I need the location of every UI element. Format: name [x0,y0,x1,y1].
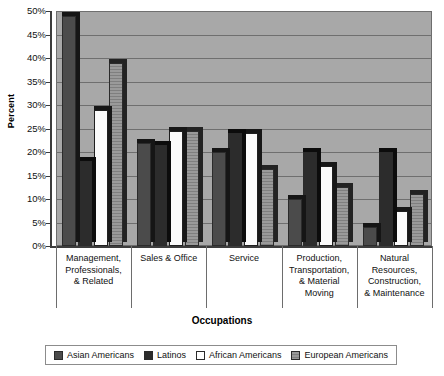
x-axis-line [50,246,433,248]
category-label: Sales & Office [131,253,206,265]
gridline [56,11,432,12]
bar [288,199,302,246]
bar-side-face [151,139,155,242]
y-axis-tick [46,82,51,83]
category-label: Service [206,253,281,265]
bar-side-face [108,106,112,242]
plot-area [56,11,432,246]
bar-side-face [317,148,321,242]
category-label-line: Natural [357,253,432,265]
category-label-line: Production, [282,253,357,265]
category-label-line: & Material [282,276,357,288]
bar-side-face [274,165,278,243]
bar-side-face [123,59,127,242]
chart-legend: Asian AmericansLatinosAfrican AmericansE… [45,345,397,365]
legend-label: Asian Americans [67,350,134,360]
y-axis-tick [46,35,51,36]
x-axis-title: Occupations [0,315,444,326]
bar-side-face [92,157,96,242]
bar-side-face [167,141,171,242]
y-axis-title: Percent [6,76,16,146]
bar-front-face [137,143,151,246]
legend-label: African Americans [209,350,282,360]
legend-item: European Americans [291,350,388,360]
bar-side-face [393,148,397,242]
y-axis-tick-label: 5% [0,217,46,228]
category-label-line: Management, [56,253,131,265]
category-label-line: Construction, [357,276,432,288]
legend-swatch-icon [291,351,300,360]
y-axis-tick-label: 45% [0,29,46,40]
bar [62,16,76,246]
bar-chart: Percent 0%5%10%15%20%25%30%35%40%45%50% … [0,0,444,376]
bar [212,152,226,246]
bar-front-face [363,227,377,246]
legend-swatch-icon [144,351,153,360]
x-axis-category-labels: Management,Professionals,& RelatedSales … [56,253,432,311]
gridline [56,35,432,36]
legend-item: Latinos [144,350,186,360]
y-axis-tick-label: 15% [0,170,46,181]
bar-side-face [76,12,80,242]
category-label-line: & Related [56,276,131,288]
y-axis-tick [46,246,51,247]
bar-front-face [288,199,302,246]
bar-side-face [302,195,306,242]
category-label-line: Moving [282,288,357,300]
bar [137,143,151,246]
bar-side-face [183,127,187,242]
bar-front-face [212,152,226,246]
y-axis-tick [46,176,51,177]
legend-item: African Americans [196,350,282,360]
bar-side-face [408,207,412,242]
category-label-line: Transportation, [282,265,357,277]
category-label: NaturalResources,Construction,& Maintena… [357,253,432,299]
bar-side-face [258,129,262,242]
bar-side-face [377,223,381,242]
bar [363,227,377,246]
bar-side-face [333,162,337,242]
y-axis-tick [46,129,51,130]
category-label-line: Resources, [357,265,432,277]
y-axis-tick-label: 40% [0,52,46,63]
bar-side-face [242,129,246,242]
category-label-line: Sales & Office [131,253,206,265]
bar-front-face [62,16,76,246]
category-label-line: Service [206,253,281,265]
category-label-line: & Maintenance [357,288,432,300]
y-axis-tick [46,152,51,153]
bar-side-face [226,148,230,242]
legend-swatch-icon [54,351,63,360]
category-label: Production,Transportation,& MaterialMovi… [282,253,357,299]
bar-side-face [424,190,428,242]
y-axis-tick-label: 25% [0,123,46,134]
legend-label: European Americans [304,350,388,360]
y-axis-tick-label: 20% [0,146,46,157]
category-label: Management,Professionals,& Related [56,253,131,288]
y-axis-tick-label: 0% [0,240,46,251]
y-axis-tick-label: 10% [0,193,46,204]
category-label-line: Professionals, [56,265,131,277]
legend-label: Latinos [157,350,186,360]
y-axis-tick-label: 35% [0,76,46,87]
category-separator [432,246,433,308]
y-axis-tick [46,105,51,106]
y-axis-tick [46,223,51,224]
y-axis-tick [46,199,51,200]
y-axis-tick-label: 30% [0,99,46,110]
y-axis-tick [46,11,51,12]
legend-swatch-icon [196,351,205,360]
bar-side-face [199,127,203,242]
legend-item: Asian Americans [54,350,134,360]
bar-side-face [349,183,353,242]
y-axis-tick-label: 50% [0,5,46,16]
y-axis-tick [46,58,51,59]
